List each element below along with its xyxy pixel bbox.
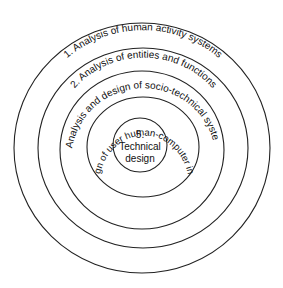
concentric-diagram: 1. Analysis of human activity systems 2.…: [0, 0, 283, 288]
center-line2: design: [125, 153, 154, 164]
ring-3-label: 3. Analysis and design of socio-technica…: [0, 0, 222, 151]
center-number: 5.: [136, 129, 144, 140]
center-line1: Technical: [119, 141, 161, 152]
